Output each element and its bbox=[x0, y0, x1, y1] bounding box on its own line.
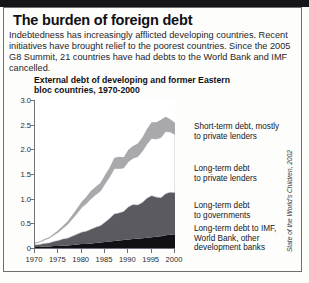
x-axis-tick-label: 1970 bbox=[26, 255, 43, 264]
standfirst-text: Indebtedness has increasingly afflicted … bbox=[9, 30, 300, 74]
legend-label-long-term-private: Long-term debt to private lenders bbox=[194, 164, 257, 183]
infographic-panel: The burden of foreign debt Indebtedness … bbox=[0, 0, 309, 283]
x-axis-labels: 1970197519801985199019952000 bbox=[34, 249, 194, 265]
source-credit: State of the World's Children, 2002 bbox=[286, 150, 293, 252]
stacked-area-series bbox=[35, 100, 175, 248]
page-title: The burden of foreign debt bbox=[13, 12, 192, 28]
plot-canvas bbox=[34, 100, 175, 249]
top-rule-divider bbox=[0, 0, 309, 7]
chart-area: 3.02.52.01.51.00.50 19701975198019851990… bbox=[0, 96, 309, 266]
legend-label-long-term-governments: Long-term debt to governments bbox=[194, 201, 250, 220]
x-axis-tick-label: 1980 bbox=[72, 255, 89, 264]
x-axis-tick-label: 1985 bbox=[96, 255, 113, 264]
x-axis-tick-label: 2000 bbox=[166, 255, 183, 264]
x-axis-tick-label: 1995 bbox=[142, 255, 159, 264]
legend-label-short-term-private: Short-term debt, mostly to private lende… bbox=[194, 122, 279, 141]
x-axis-tick-label: 1990 bbox=[119, 255, 136, 264]
chart-title: External debt of developing and former E… bbox=[34, 75, 234, 96]
legend-label-long-term-imf-worldbank: Long-term debt to IMF, World Bank, other… bbox=[194, 224, 276, 253]
x-axis-tick-label: 1975 bbox=[49, 255, 66, 264]
